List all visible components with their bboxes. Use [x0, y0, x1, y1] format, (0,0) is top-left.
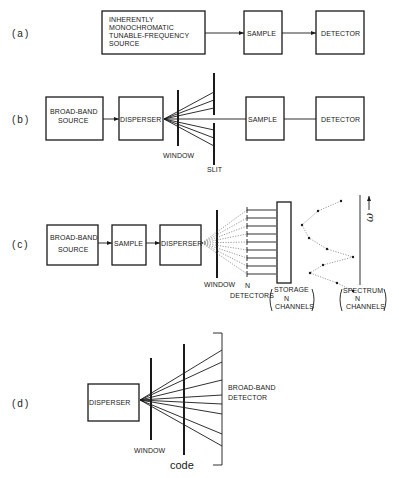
omega-label: ω: [363, 213, 376, 222]
source-line-2: SOURCE: [58, 117, 89, 124]
spectrum-paren-left: [340, 289, 342, 311]
disperser-label: DISPERSER: [89, 399, 130, 406]
sample-label: SAMPLE: [247, 30, 276, 37]
panel-c-label: (c): [12, 239, 30, 250]
source-line-1: INHERENTLY: [109, 16, 154, 23]
detector-array: [247, 207, 276, 277]
spectroscopy-diagram: (a) INHERENTLY MONOCHROMATIC TUNABLE-FRE…: [0, 0, 399, 478]
disperser-label: DISPERSER: [120, 116, 161, 123]
spectrum-channels: CHANNELS: [346, 303, 385, 310]
slit-label: SLIT: [207, 166, 223, 173]
dispersed-rays: [140, 350, 222, 446]
source-line-4: SOURCE: [109, 40, 140, 47]
sample-label: SAMPLE: [114, 240, 143, 247]
spectrum-plot: [301, 195, 360, 292]
dotted-rays: [202, 210, 247, 274]
window-label: WINDOW: [134, 447, 166, 454]
panel-d-label: (d): [12, 398, 30, 409]
storage-box: [277, 202, 291, 283]
detector-label: DETECTOR: [321, 30, 360, 37]
code-label: code: [170, 459, 194, 471]
disperser-label: DISPERSER: [161, 240, 202, 247]
panel-a-label: (a): [12, 28, 30, 39]
source-line-1: BROAD-BAND: [50, 234, 98, 241]
source-line-1: BROAD-BAND: [50, 108, 98, 115]
sample-label: SAMPLE: [248, 116, 277, 123]
detector-line-2: DETECTOR: [228, 394, 267, 401]
storage-channels: CHANNELS: [275, 303, 314, 310]
panel-b: (b) BROAD-BAND SOURCE DISPERSER WINDOW S…: [12, 73, 364, 173]
detectors-label: DETECTORS: [230, 292, 274, 299]
panel-b-label: (b): [12, 114, 30, 125]
storage-n: N: [284, 295, 289, 302]
source-line-2: MONOCHROMATIC: [109, 24, 174, 31]
panel-c: (c) BROAD-BAND SOURCE SAMPLE DISPERSER W…: [12, 195, 386, 311]
detector-line-1: BROAD-BAND: [228, 384, 276, 391]
source-line-3: TUNABLE-FREQUENCY: [109, 32, 189, 40]
spectrum-n: N: [355, 295, 360, 302]
broadband-source-box: [47, 225, 98, 265]
window-label: WINDOW: [204, 281, 236, 288]
panel-d: (d) DISPERSER WINDOW code BROAD-BAND DET…: [12, 333, 276, 471]
storage-label: STORAGE: [274, 286, 309, 293]
window-label: WINDOW: [163, 152, 195, 159]
panel-a: (a) INHERENTLY MONOCHROMATIC TUNABLE-FRE…: [12, 11, 364, 54]
detector-label: DETECTOR: [321, 116, 360, 123]
source-line-2: SOURCE: [58, 246, 89, 253]
spectrum-label: SPECTRUM: [343, 287, 383, 294]
detectors-label-n: N: [245, 282, 250, 289]
